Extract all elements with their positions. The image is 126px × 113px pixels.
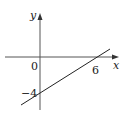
x-axis-label: x xyxy=(113,59,120,72)
y-intercept-label: −4 xyxy=(21,87,37,100)
y-axis-arrow-icon xyxy=(38,13,43,20)
y-axis-label: y xyxy=(29,9,37,22)
x-intercept-label: 6 xyxy=(92,64,99,77)
line-graph: y x 0 6 −4 xyxy=(0,0,126,113)
origin-label: 0 xyxy=(31,60,38,73)
